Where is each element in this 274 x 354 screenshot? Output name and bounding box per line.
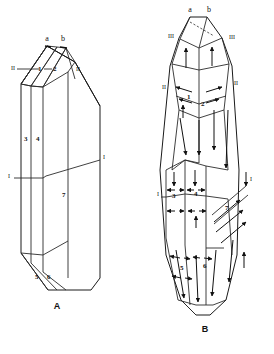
- growth-arrow-right: [204, 258, 212, 259]
- panel-b-zone-3-label: 3: [172, 192, 176, 200]
- growth-arrow-down: [212, 250, 216, 296]
- growth-arrow-down: [196, 255, 198, 302]
- panel-b-labels: a b III III II II 1 2 3 4 5 6 7 I I B: [157, 5, 252, 335]
- panel-b-zone-5-label: 5: [180, 264, 184, 272]
- panel-b-zone-4-label: 4: [194, 190, 198, 198]
- panel-b-boundary-left-top-label: III: [168, 33, 174, 39]
- panel-b-top-facets: [172, 17, 229, 70]
- panel-b-zone-1-label: 1: [187, 93, 191, 101]
- growth-arrow-right: [206, 87, 222, 92]
- panel-b-face-a-label: a: [188, 5, 192, 14]
- panel-b-caption: B: [202, 324, 209, 334]
- panel-b-zone-6-label: 6: [203, 262, 207, 270]
- panel-b-boundary-left-upper-label: II: [162, 84, 166, 90]
- panel-b-zone-2-label: 2: [201, 100, 205, 108]
- panel-b-diagram: a b III III II II 1 2 3 4 5 6 7 I I B: [0, 0, 274, 354]
- figure-root: a b II II 1 2 3 4 5 6 7 I I A: [0, 0, 274, 354]
- panel-b-mid-facets: [172, 64, 229, 170]
- panel-b-boundary-right-mid-label: I: [250, 176, 252, 182]
- growth-arrow-right: [184, 258, 190, 259]
- growth-arrow-oblique: [216, 210, 243, 232]
- growth-arrow-down: [180, 118, 186, 155]
- growth-arrow-left: [176, 87, 192, 92]
- panel-b-zone-7-label: 7: [225, 204, 229, 212]
- panel-b-face-b-label: b: [207, 5, 211, 14]
- growth-arrow-right: [185, 278, 192, 279]
- panel-b-boundary-right-upper-label: II: [234, 80, 238, 86]
- growth-arrow-left: [170, 256, 180, 258]
- panel-b-boundary-left-mid-label: I: [157, 191, 159, 197]
- growth-arrow-down: [176, 250, 184, 298]
- panel-b-hidden-edge: [190, 22, 214, 36]
- panel-b-boundary-right-top-label: III: [229, 34, 235, 40]
